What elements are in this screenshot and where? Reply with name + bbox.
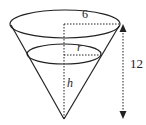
arrow-down-icon: [120, 111, 127, 119]
top-radius-label: 6: [82, 7, 88, 21]
water-height-label: h: [67, 76, 73, 90]
cone-right-side: [64, 26, 119, 119]
cone-diagram: 6 r h 12: [0, 0, 146, 125]
arrow-up-icon: [120, 24, 127, 32]
cone-height-label: 12: [130, 56, 143, 71]
water-radius-label: r: [77, 40, 82, 54]
cone-left-side: [11, 25, 64, 119]
